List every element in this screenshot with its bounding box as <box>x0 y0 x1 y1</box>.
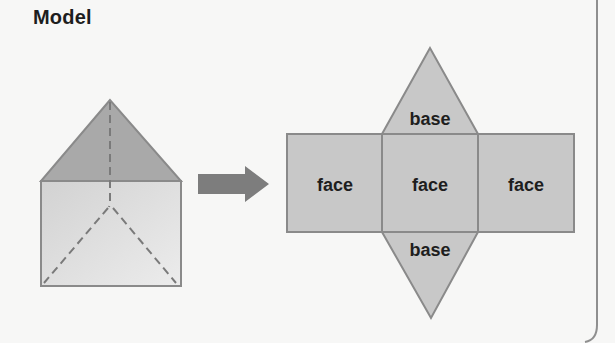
top-base-label: base <box>409 109 450 129</box>
face-label-left: face <box>317 175 353 195</box>
face-label-middle: face <box>412 175 448 195</box>
face-label-right: face <box>508 175 544 195</box>
triangular-prism <box>41 100 181 286</box>
panel-border <box>585 0 597 342</box>
arrow-right-icon <box>198 166 269 202</box>
bottom-base-label: base <box>409 240 450 260</box>
prism-net: base face face face base <box>287 48 574 318</box>
model-diagram: base face face face base <box>0 0 615 343</box>
